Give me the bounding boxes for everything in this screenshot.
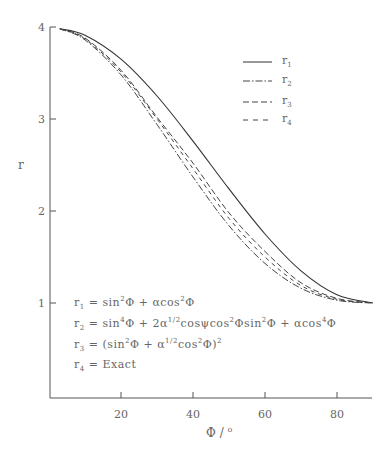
series-r1-line [60,29,373,303]
legend-label-r1: r1 [282,54,292,69]
y-tick-label-3: 3 [38,113,45,126]
legend-label-r4: r4 [282,112,292,127]
x-tick-label-20: 20 [114,408,128,421]
equation-r4: r4 = Exact [74,358,136,373]
series-r4-line [60,29,373,303]
legend-label-r2: r2 [282,73,292,88]
y-tick-label-4: 4 [38,21,45,34]
x-tick-label-40: 40 [186,408,200,421]
x-axis-title: Φ / o [206,425,232,440]
y-axis-title: r [18,158,24,172]
equation-r1: r1 = sin2Φ + αcos2Φ [74,295,195,311]
legend-label-r3: r3 [282,94,292,109]
y-tick-label-2: 2 [38,205,45,218]
series-r3-line [60,29,373,303]
equation-r2: r2 = sin4Φ + 2α1/2cosψcos2Φsin2Φ + αcos4… [74,316,336,332]
series-r2-line [60,29,373,303]
x-tick-label-80: 80 [330,408,344,421]
plot-area: 4 3 2 1 20 40 60 80 [0,0,389,449]
y-tick-label-1: 1 [38,297,45,310]
x-tick-label-60: 60 [258,408,272,421]
equation-r3: r3 = (sin2Φ + α1/2cos2Φ)2 [74,337,222,353]
